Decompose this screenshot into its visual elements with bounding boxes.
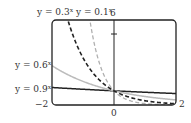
label-0.1: y = 0.1x [75, 6, 113, 17]
x-zero-label: 0 [111, 108, 117, 118]
label-0.6: y = 0.6x [14, 59, 52, 70]
label-0.3: y = 0.3x [36, 6, 74, 17]
label-0.9: y = 0.9x [14, 83, 52, 94]
exponential-chart: y = 0.3x y = 0.1x 6 y = 0.6x y = 0.9x −2… [0, 0, 191, 123]
y-max-label: 6 [110, 8, 116, 18]
x-min-label: −2 [35, 99, 48, 109]
x-max-label: 2 [179, 99, 185, 109]
